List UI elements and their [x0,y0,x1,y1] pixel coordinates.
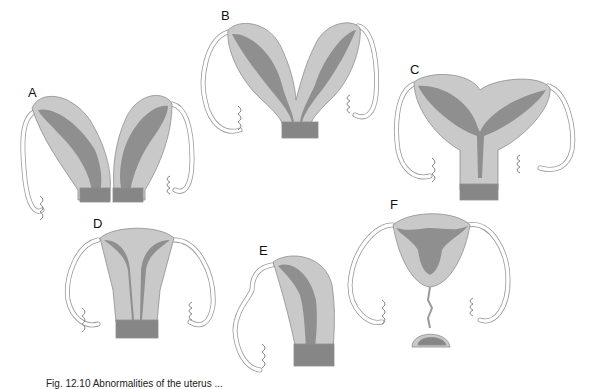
panel-label-b: B [221,8,230,23]
panel-c-illustration [397,74,573,200]
panel-label-d: D [93,216,102,231]
panel-b-illustration [203,23,376,138]
figure-caption: Fig. 12.10 Abnormalities of the uterus .… [46,378,223,389]
panel-label-a: A [28,85,37,100]
panel-d-illustration [67,228,213,338]
panel-label-e: E [259,243,268,258]
panel-e-illustration [235,256,334,370]
panel-a-illustration [23,95,192,220]
panel-label-f: F [390,197,398,212]
panel-label-c: C [410,62,419,77]
panel-f-illustration [350,214,508,347]
